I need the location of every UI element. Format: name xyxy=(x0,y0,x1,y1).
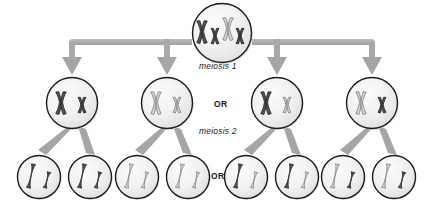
gamete-cell-6 xyxy=(276,156,320,200)
parent-cell xyxy=(193,4,253,64)
or-label-meiosis1: OR xyxy=(214,100,228,109)
meiosis1-cell-3 xyxy=(252,78,304,130)
gamete-cell-3 xyxy=(116,156,160,200)
meiosis-1-label: meiosis 1 xyxy=(199,62,237,71)
gamete-cell-5 xyxy=(225,156,269,200)
gamete-cell-7 xyxy=(322,156,366,200)
gamete-cell-8 xyxy=(373,156,417,200)
or-label-meiosis2: OR xyxy=(211,172,225,181)
gamete-cell-1 xyxy=(18,156,62,200)
meiosis1-cell-2 xyxy=(142,78,194,130)
gamete-cell-2 xyxy=(69,156,113,200)
meiosis1-cell-4 xyxy=(347,78,399,130)
meiosis-2-label: meiosis 2 xyxy=(199,127,237,136)
diagram-canvas: meiosis 1 OR meiosis 2 OR xyxy=(0,0,444,214)
gamete-cell-4 xyxy=(167,156,211,200)
meiosis1-cell-1 xyxy=(47,78,99,130)
